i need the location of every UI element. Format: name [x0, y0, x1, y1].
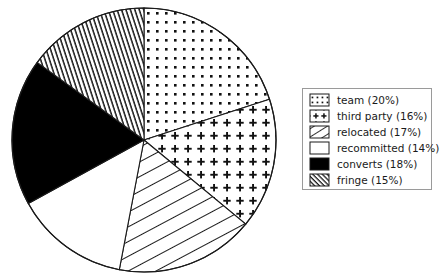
legend-item-relocated[interactable]: relocated (17%) — [310, 126, 421, 138]
legend-item-third-party[interactable]: third party (16%) — [310, 110, 427, 122]
legend-swatch-dense-diagonal-hatch — [310, 174, 329, 186]
legend-swatch-solid-white — [310, 142, 329, 154]
legend-swatch-wide-diagonal-hatch — [310, 126, 329, 138]
pie-slices — [12, 8, 276, 272]
legend-item-recommitted[interactable]: recommitted (14%) — [310, 142, 439, 154]
legend-swatch-solid-black — [310, 158, 329, 170]
legend-item-converts[interactable]: converts (18%) — [310, 158, 417, 170]
pie-chart-figure: team (20%) third party (16%) relocated (… — [0, 0, 442, 278]
legend-label-third-party: third party (16%) — [337, 110, 427, 122]
legend-item-team[interactable]: team (20%) — [310, 94, 399, 106]
legend-label-converts: converts (18%) — [337, 158, 417, 170]
legend-label-relocated: relocated (17%) — [337, 126, 421, 138]
legend-label-recommitted: recommitted (14%) — [337, 142, 439, 154]
legend-item-fringe[interactable]: fringe (15%) — [310, 174, 403, 186]
chart-canvas: team (20%) third party (16%) relocated (… — [0, 0, 442, 278]
legend-swatch-dots — [310, 94, 329, 106]
legend-label-fringe: fringe (15%) — [337, 174, 403, 186]
legend-label-team: team (20%) — [337, 94, 399, 106]
legend-swatch-plus-signs — [310, 110, 329, 122]
chart-legend: team (20%) third party (16%) relocated (… — [303, 89, 440, 190]
